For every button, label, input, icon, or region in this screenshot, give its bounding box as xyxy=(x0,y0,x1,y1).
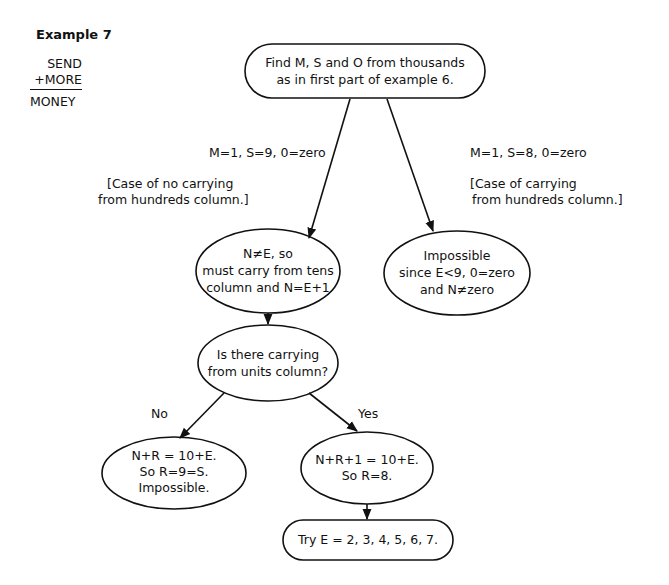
left-edge-note-line2: from hundreds column.] xyxy=(98,192,249,208)
puzzle-line-send: SEND xyxy=(44,56,82,72)
yes-branch-line2: So R=8. xyxy=(342,468,393,484)
arrow-left-branch xyxy=(309,99,350,238)
question-line2: from units column? xyxy=(208,364,328,380)
start-node-line2: as in first part of example 6. xyxy=(276,72,453,88)
no-branch-line1: N+R = 10+E. xyxy=(131,448,216,464)
no-branch-line3: Impossible. xyxy=(138,480,209,496)
left-edge-note-line1: [Case of no carrying xyxy=(107,176,233,192)
start-node-line1: Find M, S and O from thousands xyxy=(265,55,465,71)
question-line1: Is there carrying xyxy=(217,347,320,363)
arrow-yes xyxy=(309,393,357,431)
left-edge-label: M=1, S=9, 0=zero xyxy=(209,145,326,161)
right-edge-note-line1: [Case of carrying xyxy=(470,176,577,192)
no-carry-hundreds-line3: column and N=E+1 xyxy=(206,280,330,296)
final-node-text: Try E = 2, 3, 4, 5, 6, 7. xyxy=(298,532,438,548)
no-branch-line2: So R=9=S. xyxy=(139,464,208,480)
no-edge-label: No xyxy=(151,406,168,422)
right-edge-label: M=1, S=8, 0=zero xyxy=(470,145,587,161)
no-carry-hundreds-line1: N≠E, so xyxy=(243,246,293,262)
arrow-no xyxy=(180,393,224,438)
puzzle-line-money: MONEY xyxy=(30,94,76,110)
yes-edge-label: Yes xyxy=(358,406,378,422)
question-node-shape xyxy=(198,325,338,401)
no-carry-hundreds-line2: must carry from tens xyxy=(202,263,334,279)
carry-hundreds-line2: since E<9, 0=zero xyxy=(399,265,515,281)
puzzle-line-more: +MORE xyxy=(30,72,82,90)
carry-hundreds-line1: Impossible xyxy=(423,248,490,264)
carry-hundreds-line3: and N≠zero xyxy=(420,282,494,298)
start-node-shape xyxy=(245,44,485,98)
yes-branch-line1: N+R+1 = 10+E. xyxy=(315,452,419,468)
example-title: Example 7 xyxy=(36,27,112,43)
arrow-right-branch xyxy=(387,99,433,231)
right-edge-note-line2: from hundreds column.] xyxy=(472,192,623,208)
